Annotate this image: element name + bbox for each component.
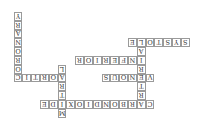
crossword-cell[interactable]: E xyxy=(137,74,146,83)
crossword-cell[interactable]: R xyxy=(75,56,84,65)
crossword-cell[interactable]: I xyxy=(93,56,102,65)
crossword-cell[interactable]: T xyxy=(31,74,40,83)
crossword-cell[interactable]: R xyxy=(14,21,23,30)
crossword-cell[interactable]: R xyxy=(128,100,137,109)
crossword-cell[interactable]: O xyxy=(49,74,58,83)
crossword-cell[interactable]: T xyxy=(58,91,67,100)
crossword-cell[interactable]: B xyxy=(119,100,128,109)
crossword-cell[interactable]: Y xyxy=(14,12,23,21)
crossword-cell[interactable]: A xyxy=(137,100,146,109)
crossword-cell[interactable]: I xyxy=(22,74,31,83)
crossword-grid: CORONARYAORTIMITRLCARBONDIOXDERTERIALVNO… xyxy=(0,0,198,124)
crossword-cell[interactable]: L xyxy=(137,38,146,47)
crossword-cell[interactable]: S xyxy=(163,38,172,47)
crossword-cell[interactable]: M xyxy=(58,109,67,118)
crossword-cell[interactable]: R xyxy=(102,56,111,65)
crossword-cell[interactable]: O xyxy=(84,56,93,65)
crossword-cell[interactable]: N xyxy=(128,56,137,65)
crossword-cell[interactable]: E xyxy=(40,100,49,109)
crossword-cell[interactable]: S xyxy=(102,74,111,83)
crossword-cell[interactable]: U xyxy=(110,74,119,83)
crossword-cell[interactable]: I xyxy=(84,100,93,109)
crossword-cell[interactable]: S xyxy=(181,38,190,47)
crossword-cell[interactable]: I xyxy=(58,100,67,109)
crossword-cell[interactable]: Y xyxy=(172,38,181,47)
crossword-cell[interactable]: R xyxy=(137,65,146,74)
crossword-cell[interactable]: R xyxy=(58,82,67,91)
crossword-cell[interactable]: F xyxy=(119,56,128,65)
crossword-cell[interactable]: T xyxy=(137,82,146,91)
crossword-cell[interactable]: A xyxy=(14,30,23,39)
crossword-cell[interactable]: O xyxy=(119,74,128,83)
crossword-cell[interactable]: N xyxy=(102,100,111,109)
crossword-cell[interactable]: I xyxy=(137,56,146,65)
crossword-cell[interactable]: D xyxy=(49,100,58,109)
crossword-cell[interactable]: O xyxy=(14,47,23,56)
crossword-cell[interactable]: V xyxy=(146,74,155,83)
crossword-cell[interactable]: C xyxy=(146,100,155,109)
crossword-cell[interactable]: A xyxy=(137,47,146,56)
crossword-cell[interactable]: L xyxy=(58,65,67,74)
crossword-cell[interactable]: R xyxy=(137,91,146,100)
crossword-cell[interactable]: A xyxy=(58,74,67,83)
crossword-cell[interactable]: D xyxy=(93,100,102,109)
crossword-cell[interactable]: T xyxy=(154,38,163,47)
crossword-cell[interactable]: E xyxy=(110,56,119,65)
crossword-cell[interactable]: N xyxy=(128,74,137,83)
crossword-cell[interactable]: R xyxy=(40,74,49,83)
crossword-cell[interactable]: R xyxy=(14,56,23,65)
crossword-cell[interactable]: O xyxy=(146,38,155,47)
crossword-cell[interactable]: E xyxy=(128,38,137,47)
crossword-cell[interactable]: N xyxy=(14,38,23,47)
crossword-cell[interactable]: O xyxy=(75,100,84,109)
crossword-cell[interactable]: O xyxy=(110,100,119,109)
crossword-cell[interactable]: O xyxy=(14,65,23,74)
crossword-cell[interactable]: C xyxy=(14,74,23,83)
crossword-cell[interactable]: X xyxy=(66,100,75,109)
